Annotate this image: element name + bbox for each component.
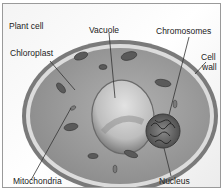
label-vacuole: Vacuole <box>89 26 119 35</box>
label-mitochondria: Mitochondria <box>13 177 62 186</box>
diagram-title: Plant cell <box>9 22 44 31</box>
label-cell-wall-line1: Cell <box>201 53 216 62</box>
diagram-frame: Plant cell Vacuole Chromosomes Chloropla… <box>2 3 221 188</box>
nucleus <box>146 114 180 148</box>
label-chromosomes: Chromosomes <box>156 27 211 36</box>
label-nucleus: Nucleus <box>159 177 190 186</box>
label-chloroplast: Chloroplast <box>10 49 53 58</box>
label-cell-wall-line2: wall <box>202 63 217 72</box>
